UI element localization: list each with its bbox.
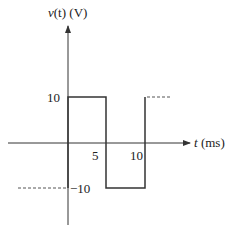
y-tick-neg10: −10 bbox=[70, 181, 90, 196]
x-axis-label: t (ms) bbox=[194, 135, 225, 150]
y-axis-label-arg: (t) bbox=[54, 5, 66, 20]
x-tick-5: 5 bbox=[92, 148, 99, 163]
y-tick-10: 10 bbox=[47, 90, 60, 105]
y-axis-label: v(t) (V) bbox=[48, 5, 87, 20]
square-wave-diagram: v(t) (V) t (ms) 10 −10 5 10 bbox=[0, 0, 231, 229]
x-tick-10: 10 bbox=[130, 148, 143, 163]
